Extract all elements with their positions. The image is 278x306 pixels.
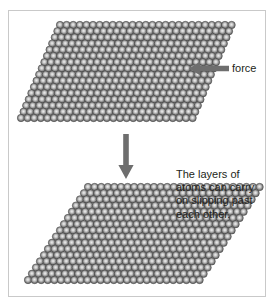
atom	[71, 276, 78, 283]
atom	[149, 114, 156, 121]
atom	[97, 276, 104, 283]
atom	[116, 114, 123, 121]
atom	[77, 276, 84, 283]
atom	[17, 114, 24, 121]
atom	[77, 114, 84, 121]
atom	[169, 114, 176, 121]
atom	[182, 114, 189, 121]
figure-container: force The layers of atoms can carry on s…	[0, 0, 278, 306]
atom	[24, 276, 31, 283]
slip-explanation-text: The layers of atoms can carry on slippin…	[176, 168, 272, 221]
atom	[110, 114, 117, 121]
atom	[57, 114, 64, 121]
atom	[176, 276, 183, 283]
atom	[196, 276, 203, 283]
slip-text-line: The layers of	[176, 168, 272, 181]
atom	[31, 114, 38, 121]
atom	[44, 114, 51, 121]
atom	[37, 114, 44, 121]
atom	[104, 276, 111, 283]
force-label: force	[232, 62, 256, 75]
atom	[110, 276, 117, 283]
atom	[189, 276, 196, 283]
atom	[24, 114, 31, 121]
atom	[90, 276, 97, 283]
atom	[143, 276, 150, 283]
lattice-before-slip	[14, 20, 214, 135]
atom	[103, 114, 110, 121]
atom	[123, 276, 130, 283]
atom	[137, 276, 144, 283]
atom	[150, 276, 157, 283]
atom	[130, 276, 137, 283]
down-arrow	[118, 134, 134, 179]
atom	[51, 276, 58, 283]
atom	[136, 114, 143, 121]
atom	[64, 114, 71, 121]
slip-text-line: on slipping past	[176, 194, 272, 207]
atom	[163, 276, 170, 283]
atom	[90, 114, 97, 121]
atom	[64, 276, 71, 283]
atom	[156, 276, 163, 283]
atom	[176, 114, 183, 121]
atom	[170, 276, 177, 283]
atom	[123, 114, 130, 121]
atom	[183, 276, 190, 283]
atom	[50, 114, 57, 121]
atom	[156, 114, 163, 121]
atom	[189, 114, 196, 121]
slip-text-line: each other.	[176, 208, 272, 221]
atom	[163, 114, 170, 121]
atom	[44, 276, 51, 283]
atom	[84, 276, 91, 283]
atom	[143, 114, 150, 121]
atom	[31, 276, 38, 283]
slip-text-line: atoms can carry	[176, 181, 272, 194]
atom	[130, 114, 137, 121]
atom	[38, 276, 45, 283]
atom	[97, 114, 104, 121]
atom	[117, 276, 124, 283]
atom	[83, 114, 90, 121]
atom	[70, 114, 77, 121]
force-arrow	[189, 61, 229, 76]
atom	[57, 276, 64, 283]
